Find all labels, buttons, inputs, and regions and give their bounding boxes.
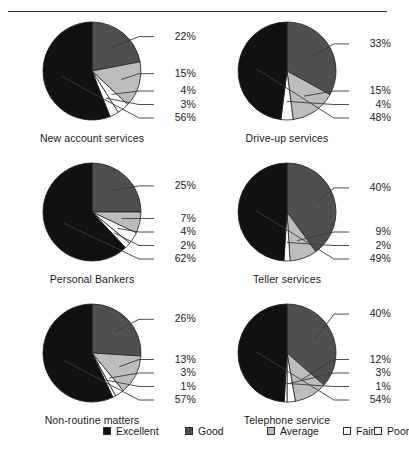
legend-item-average: Average [267,425,343,437]
legend-label: Fair [356,425,374,437]
pie-slice-label: 15% [203,84,391,96]
pie-slice-label: 2% [8,239,196,251]
pie-slice-label: 62% [8,252,196,264]
pie-slice-label: 3% [8,98,196,110]
legend-item-poor: Poor [374,425,409,437]
legend-label: Good [198,425,224,437]
chart-legend: ExcellentGoodAverageFairPoor [103,424,343,438]
pie-slice-label: 3% [8,366,196,378]
legend-item-fair: Fair [343,425,374,437]
pie-slice-label: 40% [203,181,391,193]
pie-chart-2: 33%15%4%48%Drive-up services [203,14,400,156]
legend-swatch-icon [343,427,351,435]
pie-chart-title: Drive-up services [203,132,371,144]
pie-slice-label: 26% [8,312,196,324]
pie-slice-label: 1% [8,380,196,392]
pie-slice-label: 9% [203,225,391,237]
pie-slice-label: 7% [8,212,196,224]
pie-slice-label: 4% [8,84,196,96]
pie-slice-label: 12% [203,353,391,365]
pie-slice-label: 54% [203,393,391,405]
legend-item-good: Good [185,425,267,437]
legend-label: Poor [387,425,409,437]
pie-slice-label: 15% [8,67,196,79]
legend-swatch-icon [185,427,193,435]
pie-slice-label: 2% [203,239,391,251]
pie-slice-label: 22% [8,30,196,42]
legend-label: Average [280,425,319,437]
pie-slice-label: 57% [8,393,196,405]
pie-slice-label: 13% [8,353,196,365]
pie-slice-label: 33% [203,37,391,49]
pie-chart-title: Teller services [203,273,371,285]
pie-slice-label: 3% [203,366,391,378]
top-divider [8,11,387,12]
pie-slice-label: 49% [203,252,391,264]
pie-slice-label: 25% [8,179,196,191]
legend-item-excellent: Excellent [103,425,185,437]
legend-swatch-icon [103,427,111,435]
pie-slice-label: 40% [203,307,391,319]
pie-chart-1: 22%15%4%3%56%New account services [8,14,205,156]
pie-chart-title: New account services [8,132,176,144]
legend-swatch-icon [374,427,382,435]
pie-slice-label: 56% [8,111,196,123]
pie-slice-label: 48% [203,111,391,123]
pie-slice-label: 1% [203,380,391,392]
pie-chart-5: 26%13%3%1%57%Non-routine matters [8,296,205,438]
pie-chart-3: 25%7%4%2%62%Personal Bankers [8,155,205,297]
legend-swatch-icon [267,427,275,435]
pie-slice-label: 4% [8,225,196,237]
pie-slice-label: 4% [203,98,391,110]
legend-label: Excellent [116,425,159,437]
pie-chart-title: Personal Bankers [8,273,176,285]
pie-chart-4: 40%9%2%49%Teller services [203,155,400,297]
pie-chart-6: 40%12%3%1%54%Telephone service [203,296,400,438]
